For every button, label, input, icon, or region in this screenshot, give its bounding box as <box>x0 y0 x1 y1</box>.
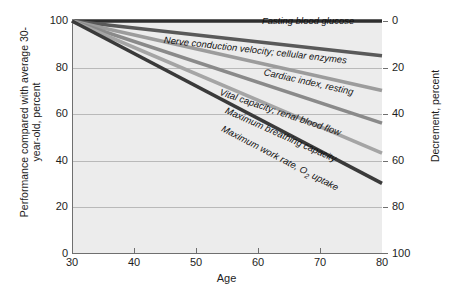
y-right-tick-mark-60 <box>383 161 388 162</box>
x-tick-mark-50 <box>196 248 197 253</box>
y-right-tick-mark-80 <box>383 207 388 208</box>
x-tick-mark-40 <box>134 248 135 253</box>
x-tick-30: 30 <box>59 256 85 268</box>
y-left-tick-20: 20 <box>42 200 68 212</box>
x-tick-50: 50 <box>183 256 209 268</box>
y-right-tick-20: 20 <box>392 61 404 73</box>
x-tick-mark-70 <box>320 248 321 253</box>
y-left-tick-80: 80 <box>42 61 68 73</box>
y-left-tick-40: 40 <box>42 154 68 166</box>
y-right-tick-40: 40 <box>392 107 404 119</box>
x-tick-70: 70 <box>307 256 333 268</box>
y-right-axis-title: Decrement, percent <box>429 26 441 206</box>
y-left-axis-title: Performance compared with average 30-yea… <box>18 22 42 222</box>
x-axis-title: Age <box>0 272 453 284</box>
gridline-80 <box>72 68 382 69</box>
x-axis-line <box>72 253 383 254</box>
x-tick-80: 80 <box>369 256 395 268</box>
y-right-tick-mark-0 <box>383 21 388 22</box>
y-left-tick-60: 60 <box>42 107 68 119</box>
y-right-tick-80: 80 <box>392 200 404 212</box>
x-tick-40: 40 <box>121 256 147 268</box>
y-left-tick-100: 100 <box>42 14 68 26</box>
y-right-tick-mark-20 <box>383 68 388 69</box>
y-right-tick-mark-40 <box>383 114 388 115</box>
chart-figure: 100 80 60 40 20 0 0 20 40 60 80 100 30 4… <box>0 0 453 293</box>
y-right-tick-mark-100 <box>383 253 388 254</box>
x-tick-mark-60 <box>258 248 259 253</box>
series-label-fasting-blood-glucose: Fasting blood glucose <box>262 15 354 26</box>
gridline-20 <box>72 207 382 208</box>
y-right-tick-0: 0 <box>392 14 398 26</box>
y-right-tick-60: 60 <box>392 154 404 166</box>
y-axis-line <box>72 21 73 254</box>
x-tick-60: 60 <box>245 256 271 268</box>
